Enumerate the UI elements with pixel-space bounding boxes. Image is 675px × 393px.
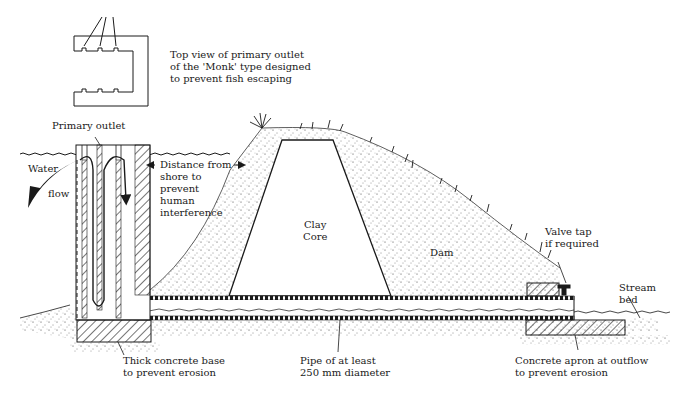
dam-label: Dam	[430, 247, 453, 259]
pipe-label: Pipe of at least 250 mm diameter	[300, 355, 390, 379]
stream-bed	[628, 318, 658, 332]
concrete-base	[77, 320, 151, 342]
top-view-label: Top view of primary outlet of the 'Monk'…	[170, 49, 311, 85]
valve-tap-label: Valve tap if required	[545, 226, 599, 250]
stream-bed-label: Stream bed	[619, 282, 656, 306]
top-view-monk	[74, 17, 148, 106]
dam-diagram	[0, 0, 675, 393]
outflow-pipe	[134, 296, 574, 320]
distance-label: Distance from shore to prevent human int…	[160, 159, 231, 219]
concrete-base-label: Thick concrete base to prevent erosion	[123, 355, 225, 379]
primary-outlet-label: Primary outlet	[52, 120, 125, 132]
valve-block	[527, 283, 559, 296]
flow-label: flow	[48, 188, 69, 200]
concrete-apron-label: Concrete apron at outflow to prevent ero…	[515, 355, 648, 379]
concrete-apron	[526, 320, 625, 335]
stream-surface	[574, 311, 670, 313]
clay-core-label: Clay Core	[303, 219, 327, 243]
primary-outlet-tower	[76, 145, 150, 320]
left-bank	[20, 305, 78, 340]
water-label: Water	[28, 163, 58, 175]
